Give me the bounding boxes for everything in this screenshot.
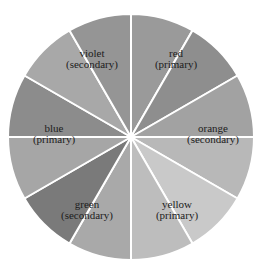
label-green: green (secondary) (42, 199, 132, 221)
label-violet-role: (secondary) (47, 59, 137, 70)
label-blue-role: (primary) (9, 134, 99, 145)
label-green-role: (secondary) (42, 210, 132, 221)
label-violet: violet (secondary) (47, 48, 137, 70)
label-yellow: yellow (primary) (132, 199, 222, 221)
label-red: red (primary) (131, 48, 221, 70)
label-red-role: (primary) (131, 59, 221, 70)
label-orange: orange (secondary) (168, 123, 257, 145)
label-blue: blue (primary) (9, 123, 99, 145)
label-yellow-role: (primary) (132, 210, 222, 221)
label-orange-role: (secondary) (168, 134, 257, 145)
